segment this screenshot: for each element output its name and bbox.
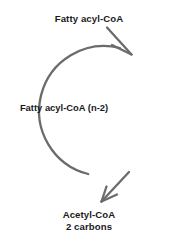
fatty-acid-oxidation-cycle-diagram: Fatty acyl-CoA Fatty acyl-CoA (n-2) Acet…	[0, 0, 178, 245]
label-fatty-acyl-coa-input: Fatty acyl-CoA	[0, 13, 178, 24]
fatty-acyl-coa-input-arrow	[107, 28, 132, 55]
label-fatty-acyl-coa-recycled: Fatty acyl-CoA (n-2)	[0, 102, 128, 113]
label-acetyl-coa-output: Acetyl-CoA 2 carbons	[0, 209, 178, 233]
label-acetyl-coa-line1: Acetyl-CoA	[63, 209, 116, 220]
label-acetyl-coa-line2: 2 carbons	[0, 221, 178, 232]
acetyl-coa-output-arrow	[102, 172, 130, 202]
input-arrow-shaft	[107, 28, 132, 55]
